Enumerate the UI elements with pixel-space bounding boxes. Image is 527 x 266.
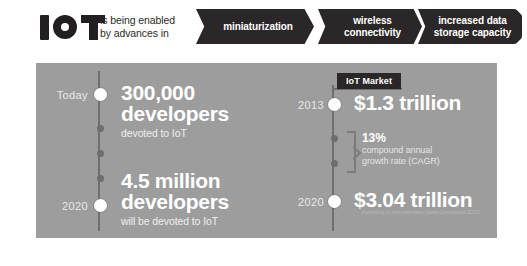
cagr-value: 13% [362, 131, 386, 145]
timeline-tick-right-2 [331, 160, 338, 167]
logo-letter-o [53, 15, 77, 39]
timeline-node-today [94, 88, 107, 101]
header-tagline-line1: is being enabled [100, 14, 195, 27]
stats-panel: Today 2020 300,000 developers devoted to… [36, 63, 497, 238]
banner-wireless-connectivity: wireless connectivity [318, 9, 422, 44]
market-badge: IoT Market [337, 73, 401, 89]
banner-miniaturization-line1: miniaturization [223, 21, 293, 33]
left-headline-1-line2: developers [121, 103, 229, 125]
left-subline-2: will be devoted to IoT [121, 215, 218, 227]
banner-miniaturization: miniaturization [196, 9, 314, 44]
right-headline-2013: $1.3 trillion [354, 92, 461, 114]
infographic-canvas: is being enabled by advances in miniatur… [0, 0, 527, 266]
banner-wireless-connectivity-line2: connectivity [344, 27, 401, 39]
banner-storage-capacity-line1: increased data [434, 15, 511, 27]
timeline-tick-left-3 [97, 175, 104, 182]
right-headline-2020: $3.04 trillion [354, 189, 472, 211]
year-label-2020-right: 2020 [268, 196, 324, 208]
left-subline-1: devoted to IoT [121, 127, 187, 139]
year-label-2020-left: 2020 [32, 200, 88, 212]
source-note: According to Intel estimates (Sofia Cons… [362, 209, 497, 215]
timeline-node-2013 [328, 98, 341, 111]
year-label-today: Today [32, 89, 88, 101]
banner-wireless-connectivity-line1: wireless [344, 15, 401, 27]
left-headline-2-line1: 4.5 million [121, 170, 220, 192]
left-headline-1-line1: 300,000 [121, 82, 195, 104]
timeline-tick-right-1 [331, 135, 338, 142]
cagr-description-line1: compound annual [362, 145, 482, 156]
timeline-node-2020-left [94, 199, 107, 212]
logo-letter-i [40, 15, 49, 40]
timeline-tick-left-1 [97, 125, 104, 132]
year-label-2013: 2013 [268, 99, 324, 111]
banner-storage-capacity: increased data storage capacity [418, 9, 522, 44]
timeline-node-2020-right [328, 195, 341, 208]
cagr-description-line2: growth rate (CAGR) [362, 156, 482, 167]
header-tagline: is being enabled by advances in [100, 14, 195, 39]
left-headline-2-line2: developers [121, 191, 229, 213]
header: is being enabled by advances in miniatur… [0, 0, 527, 56]
cagr-description: compound annual growth rate (CAGR) [362, 145, 482, 166]
iot-logo [40, 14, 105, 40]
header-tagline-line2: by advances in [100, 27, 195, 40]
timeline-tick-left-2 [97, 150, 104, 157]
banner-storage-capacity-line2: storage capacity [434, 27, 511, 39]
cagr-bracket [347, 131, 356, 173]
